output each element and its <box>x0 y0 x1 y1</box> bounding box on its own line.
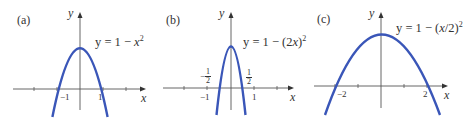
tick-label-1-b: 1 <box>252 93 257 102</box>
x-axis-label-c: x <box>444 89 449 101</box>
denominator: 2 <box>206 77 210 85</box>
panel-a: (a) y x −1 1 y = 1 − x2 <box>0 0 160 126</box>
fraction-half: 12 <box>246 69 252 86</box>
eq-text-suffix: /2) <box>445 21 459 35</box>
panel-label-a: (a) <box>17 14 30 26</box>
eq-exponent: 2 <box>459 20 463 29</box>
panel-c: (c) y x −2 2 y = 1 − (x/2)2 <box>310 0 474 126</box>
x-axis-label-a: x <box>141 92 146 104</box>
tick-label-neg2-c: −2 <box>337 90 347 99</box>
panel-b: (b) y x −1 1 −12 12 y = 1 − (2x)2 <box>155 0 315 126</box>
tick-label-2-c: 2 <box>423 90 428 99</box>
intercept-label-neg-half: −12 <box>200 68 211 85</box>
curve-c <box>325 35 440 116</box>
y-axis-label-b: y <box>219 7 224 19</box>
panel-label-b: (b) <box>166 14 180 26</box>
tick-label-neg1-a: −1 <box>60 93 70 102</box>
intercept-label-half: 12 <box>246 68 252 86</box>
equation-a: y = 1 − x2 <box>95 35 144 49</box>
tick-label-neg1-b: −1 <box>200 93 210 102</box>
denominator: 2 <box>247 78 251 86</box>
eq-exponent: 2 <box>302 34 306 43</box>
fraction-half: 12 <box>205 68 211 85</box>
eq-exponent: 2 <box>140 34 144 43</box>
equation-c: y = 1 − (x/2)2 <box>396 21 463 35</box>
eq-text: y = 1 − <box>95 35 134 49</box>
x-axis-label-b: x <box>290 91 295 103</box>
panel-label-c: (c) <box>317 13 330 25</box>
tick-label-1-a: 1 <box>98 93 103 102</box>
equation-b: y = 1 − (2x)2 <box>243 35 306 49</box>
y-axis-label-c: y <box>369 7 374 19</box>
y-axis-label-a: y <box>68 7 73 19</box>
eq-text: y = 1 − ( <box>396 21 439 35</box>
eq-text: y = 1 − (2 <box>243 35 293 49</box>
plot-c <box>310 0 474 126</box>
